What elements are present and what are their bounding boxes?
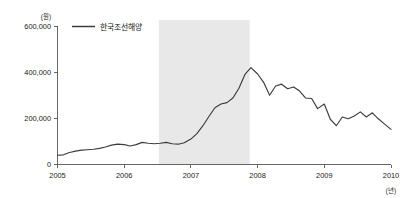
x-tick-label: 2009 (316, 171, 332, 180)
y-tick-label: 0 (47, 160, 51, 169)
chart-container: 0200,000400,000600,000 20052006200720082… (0, 0, 407, 198)
legend-label-series-0: 한국조선해양 (100, 22, 142, 32)
x-tick-label: 2007 (183, 171, 199, 180)
y-axis-unit-label: (원) (41, 12, 51, 21)
line-chart: 0200,000400,000600,000 20052006200720082… (0, 0, 407, 198)
x-tick-label: 2005 (49, 171, 65, 180)
x-axis-unit-label: (년) (386, 186, 396, 195)
y-tick-label: 600,000 (24, 22, 51, 31)
x-tick-label: 2008 (249, 171, 265, 180)
x-tick-label: 2006 (116, 171, 132, 180)
y-tick-label: 400,000 (24, 68, 51, 77)
x-tick-label: 2010 (383, 171, 399, 180)
y-tick-label: 200,000 (24, 114, 51, 123)
